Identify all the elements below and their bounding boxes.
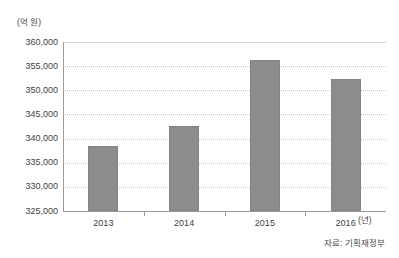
y-axis-tick-label: 350,000 xyxy=(10,86,58,95)
y-axis-line xyxy=(63,42,64,212)
y-axis-tick-label: 355,000 xyxy=(10,62,58,71)
bar-2015 xyxy=(250,60,280,211)
y-axis-tick-labels: 360,000355,000350,000345,000340,000335,0… xyxy=(5,0,58,258)
bar-chart-figure: (억 원) 360,000355,000350,000345,000340,00… xyxy=(0,0,399,258)
x-axis-tick xyxy=(225,211,226,216)
y-axis-tick-label: 340,000 xyxy=(10,134,58,143)
chart-title xyxy=(26,0,356,4)
bar-group xyxy=(250,42,280,211)
bar-group xyxy=(331,42,361,211)
bar-2016 xyxy=(331,79,361,211)
plot-area xyxy=(63,42,386,211)
bar-2013 xyxy=(88,146,118,211)
y-axis-tick-label: 360,000 xyxy=(10,38,58,47)
x-axis-tick xyxy=(305,211,306,216)
x-axis-category-label: 2014 xyxy=(154,218,214,228)
bar-group xyxy=(169,42,199,211)
y-axis-tick-label: 335,000 xyxy=(10,158,58,167)
source-note: 자료: 기획재정부 xyxy=(324,238,385,248)
y-axis-tick-label: 345,000 xyxy=(10,110,58,119)
x-axis-category-labels: 2013201420152016 xyxy=(63,211,386,235)
bar-group xyxy=(88,42,118,211)
y-axis-tick-label: 330,000 xyxy=(10,182,58,191)
x-axis-unit-label: (년) xyxy=(358,215,372,225)
x-axis-tick xyxy=(144,211,145,216)
y-axis-tick-label: 325,000 xyxy=(10,207,58,216)
bar-2014 xyxy=(169,126,199,211)
x-axis-category-label: 2015 xyxy=(235,218,295,228)
x-axis-category-label: 2013 xyxy=(73,218,133,228)
